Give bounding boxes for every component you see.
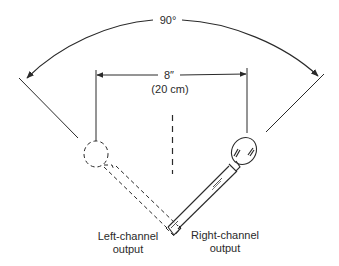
left-channel-label-line1: Left-channel (98, 230, 159, 242)
left-microphone (84, 141, 181, 236)
left-axis-line (19, 78, 78, 138)
left-channel-label-line2: output (113, 243, 144, 255)
right-microphone (168, 133, 261, 235)
right-axis-line (266, 74, 324, 132)
angle-label: 90° (160, 14, 177, 26)
right-channel-label-line2: output (210, 242, 241, 254)
grille-marks (234, 148, 254, 157)
spacing-metric-label: (20 cm) (151, 83, 188, 95)
right-channel-label-line1: Right-channel (191, 229, 259, 241)
spacing-label: 8″ (164, 69, 174, 81)
stereo-mic-diagram: 90° 8″ (20 cm) Left- (0, 0, 339, 266)
